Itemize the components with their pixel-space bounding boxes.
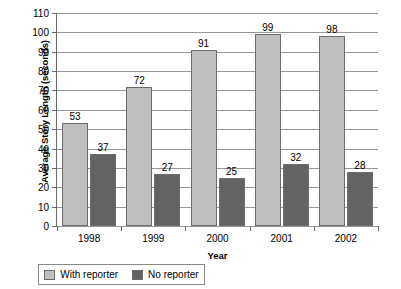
bar	[90, 154, 116, 226]
legend-label: No reporter	[148, 269, 199, 280]
bar-value-label: 37	[98, 142, 109, 154]
bar-value-label: 28	[354, 160, 365, 172]
bar-chart: Average Story Length (seconds) 010203040…	[0, 0, 401, 289]
x-tick-mark	[185, 226, 186, 231]
bar-value-label: 25	[226, 166, 237, 178]
y-tick-label: 0	[43, 221, 57, 232]
x-tick-label: 1998	[78, 226, 100, 244]
x-tick-label: 2002	[335, 226, 357, 244]
bar-value-label: 99	[262, 22, 273, 34]
legend-swatch-icon	[44, 270, 55, 280]
bar	[283, 164, 309, 226]
y-tick-label: 110	[33, 8, 57, 19]
y-tick-label: 100	[32, 27, 57, 38]
legend-entry: With reporter	[44, 269, 118, 280]
bar	[319, 36, 345, 226]
bar-value-label: 27	[162, 162, 173, 174]
y-tick-label: 50	[38, 124, 57, 135]
y-tick-label: 20	[38, 182, 57, 193]
x-tick-mark	[121, 226, 122, 231]
bar	[191, 50, 217, 226]
bar	[347, 172, 373, 226]
x-axis-title: Year	[57, 250, 378, 261]
y-tick-label: 10	[38, 201, 57, 212]
legend-label: With reporter	[60, 269, 118, 280]
x-tick-mark	[57, 226, 58, 231]
legend-entry: No reporter	[132, 269, 199, 280]
y-tick-label: 90	[38, 46, 57, 57]
x-tick-label: 2000	[206, 226, 228, 244]
bar-value-label: 32	[290, 152, 301, 164]
chart-legend: With reporterNo reporter	[38, 264, 205, 285]
x-tick-mark	[250, 226, 251, 231]
bar	[219, 178, 245, 226]
bar	[255, 34, 281, 226]
x-tick-label: 2001	[271, 226, 293, 244]
y-axis-line	[56, 13, 57, 226]
y-tick-label: 60	[38, 104, 57, 115]
y-tick-label: 70	[38, 85, 57, 96]
legend-swatch-icon	[132, 270, 143, 280]
y-tick-label: 40	[38, 143, 57, 154]
bar	[154, 174, 180, 226]
bar-value-label: 72	[134, 75, 145, 87]
y-tick-label: 30	[38, 162, 57, 173]
bar-value-label: 98	[326, 24, 337, 36]
bar-value-label: 53	[70, 111, 81, 123]
bar	[126, 87, 152, 226]
x-tick-mark	[378, 226, 379, 231]
bar-value-label: 91	[198, 38, 209, 50]
bar	[62, 123, 88, 226]
x-tick-label: 1999	[142, 226, 164, 244]
x-tick-mark	[314, 226, 315, 231]
plot-area: 0102030405060708090100110 53377227912599…	[57, 13, 378, 226]
gridline	[57, 13, 378, 14]
y-tick-label: 80	[38, 66, 57, 77]
